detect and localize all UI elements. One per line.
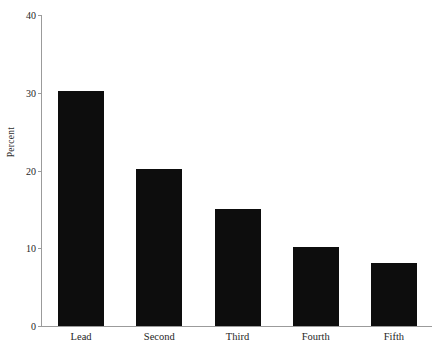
y-tick-label-40: 40 [0,10,36,21]
y-tick-label-30: 30 [0,87,36,98]
y-tick-mark-0 [38,326,42,327]
x-tick-label-third: Third [226,331,249,342]
x-tick-label-fifth: Fifth [384,331,404,342]
plot-area [41,15,432,326]
bar-fifth [371,263,417,326]
x-tick-label-lead: Lead [71,331,92,342]
bar-chart-figure: Percent 010203040 LeadSecondThirdFourthF… [0,0,441,353]
y-tick-label-20: 20 [0,165,36,176]
y-tick-label-0: 0 [0,321,36,332]
bar-lead [58,91,104,326]
x-tick-label-fourth: Fourth [302,331,330,342]
y-axis-label: Percent [6,112,16,172]
bar-fourth [293,247,339,326]
y-tick-label-10: 10 [0,243,36,254]
x-axis-line [41,326,432,327]
bar-second [136,169,182,326]
x-tick-label-second: Second [144,331,175,342]
bar-third [215,209,261,326]
